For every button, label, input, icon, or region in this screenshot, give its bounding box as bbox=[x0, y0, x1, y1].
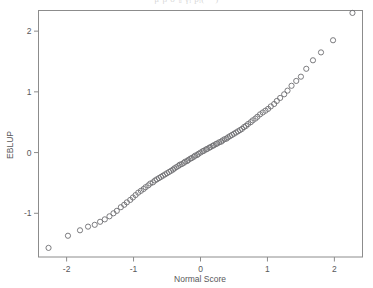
x-tick-label: -2 bbox=[63, 264, 71, 274]
x-tick-label: -1 bbox=[130, 264, 138, 274]
x-tick-label: 1 bbox=[265, 264, 270, 274]
clipped-header-text: μ̂ β̂ σ̂²ᵤ γ̂ᵢ p̂ᵢ(⋅⋅⋅) bbox=[0, 0, 373, 4]
y-tick-label: 1 bbox=[27, 87, 32, 97]
y-tick-label: 2 bbox=[27, 26, 32, 36]
y-tick-label: -1 bbox=[24, 208, 32, 218]
y-axis-ticks: -1012 bbox=[24, 26, 39, 218]
x-axis-label: Normal Score bbox=[174, 274, 226, 284]
x-tick-label: 2 bbox=[332, 264, 337, 274]
x-tick-label: 0 bbox=[198, 264, 203, 274]
y-axis-label: EBLUP bbox=[5, 131, 15, 159]
qq-plot-figure: μ̂ β̂ σ̂²ᵤ γ̂ᵢ p̂ᵢ(⋅⋅⋅) -2-1012 -1012 No… bbox=[0, 0, 373, 288]
plot-canvas: -2-1012 -1012 Normal Score EBLUP bbox=[0, 0, 373, 288]
plot-frame bbox=[39, 11, 363, 258]
y-tick-label: 0 bbox=[27, 148, 32, 158]
x-axis-ticks: -2-1012 bbox=[63, 257, 337, 274]
